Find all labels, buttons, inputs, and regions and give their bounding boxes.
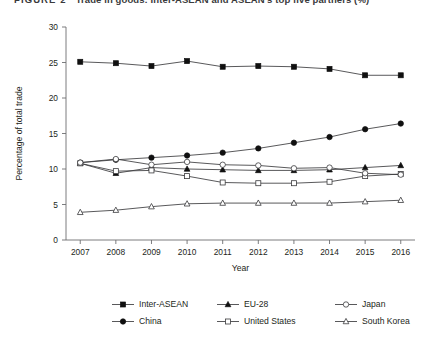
marker-filled-square [291, 64, 296, 69]
marker-filled-square [185, 59, 190, 64]
y-tick-label: 30 [49, 22, 59, 32]
legend-item-south-korea[interactable]: South Korea [335, 316, 422, 327]
marker-filled-circle [256, 146, 261, 151]
legend-label: South Korea [362, 316, 410, 327]
series-united-states [78, 161, 404, 186]
y-axis-title: Percentage of total trade [14, 86, 24, 180]
legend-item-china[interactable]: China [112, 316, 217, 327]
legend-marker-open-square [217, 316, 239, 327]
marker-filled-square [121, 302, 126, 307]
marker-filled-triangle [398, 162, 404, 167]
y-tick-label: 5 [53, 200, 58, 210]
marker-open-triangle [220, 200, 226, 205]
figure-number: FIGURE 2 [14, 0, 67, 5]
marker-open-square [149, 168, 154, 173]
x-tick-label: 2007 [71, 247, 90, 257]
x-tick-label: 2016 [391, 247, 410, 257]
legend-label: EU-28 [244, 299, 268, 310]
legend-marker-open-circle [335, 299, 357, 310]
marker-filled-square [398, 73, 403, 78]
series-line [80, 159, 401, 175]
legend-label: Inter-ASEAN [139, 299, 188, 310]
legend-label: China [139, 316, 161, 327]
x-tick-label: 2012 [249, 247, 268, 257]
marker-open-triangle [343, 318, 349, 323]
marker-open-square [291, 181, 296, 186]
line-chart: 051015202530 200720082009201020112012201… [0, 8, 441, 293]
marker-open-circle [78, 160, 83, 165]
marker-open-circle [327, 165, 332, 170]
y-tick-label: 15 [49, 129, 59, 139]
legend-marker-filled-square [112, 299, 134, 310]
marker-open-circle [113, 156, 118, 161]
marker-filled-square [327, 66, 332, 71]
x-axis-ticks: 2007200820092010201120122013201420152016 [71, 240, 410, 257]
y-tick-label: 20 [49, 93, 59, 103]
y-tick-label: 25 [49, 58, 59, 68]
legend-marker-filled-circle [112, 316, 134, 327]
marker-filled-triangle [225, 301, 231, 306]
legend-item-japan[interactable]: Japan [335, 299, 422, 310]
y-tick-label: 10 [49, 164, 59, 174]
marker-open-triangle [291, 200, 297, 205]
marker-open-circle [398, 172, 403, 177]
legend-marker-open-triangle [335, 316, 357, 327]
series-south-korea [77, 197, 403, 214]
marker-filled-square [220, 64, 225, 69]
chart-legend: Inter-ASEANEU-28JapanChinaUnited StatesS… [112, 296, 422, 330]
marker-open-square [185, 174, 190, 179]
marker-filled-circle [291, 140, 296, 145]
x-tick-label: 2011 [214, 247, 232, 257]
marker-open-square [327, 179, 332, 184]
marker-open-circle [184, 159, 189, 164]
x-tick-label: 2013 [285, 247, 304, 257]
legend-item-eu-28[interactable]: EU-28 [217, 299, 335, 310]
marker-filled-square [78, 59, 83, 64]
legend-marker-filled-triangle [217, 299, 239, 310]
series-line [80, 163, 401, 183]
figure-title: Trade in goods: Inter-ASEAN and ASEAN's … [76, 0, 370, 5]
y-axis-ticks: 051015202530 [49, 22, 66, 245]
x-tick-label: 2010 [178, 247, 197, 257]
marker-open-circle [149, 162, 154, 167]
x-tick-label: 2009 [142, 247, 161, 257]
marker-open-circle [291, 166, 296, 171]
marker-filled-square [113, 61, 118, 66]
marker-open-triangle [255, 200, 261, 205]
figure-container: FIGURE 2Trade in goods: Inter-ASEAN and … [0, 0, 441, 340]
series-line [80, 200, 401, 212]
marker-open-circle [362, 171, 367, 176]
marker-filled-circle [184, 153, 189, 158]
marker-filled-circle [398, 121, 403, 126]
marker-open-square [113, 169, 118, 174]
x-tick-label: 2008 [107, 247, 126, 257]
marker-filled-circle [220, 150, 225, 155]
marker-open-circle [343, 302, 348, 307]
series-eu-28 [77, 160, 403, 175]
legend-row: Inter-ASEANEU-28Japan [112, 296, 422, 313]
marker-filled-square [256, 64, 261, 69]
chart-axes [66, 27, 415, 240]
legend-label: Japan [362, 299, 385, 310]
marker-open-square [256, 181, 261, 186]
series-line [80, 61, 401, 75]
marker-open-circle [220, 162, 225, 167]
x-axis-title: Year [232, 263, 250, 273]
marker-open-triangle [398, 197, 404, 202]
series-inter-asean [78, 59, 404, 78]
legend-item-inter-asean[interactable]: Inter-ASEAN [112, 299, 217, 310]
x-tick-label: 2015 [356, 247, 375, 257]
marker-open-square [226, 319, 231, 324]
legend-label: United States [244, 316, 296, 327]
marker-filled-square [363, 73, 368, 78]
chart-series-layer [77, 59, 403, 215]
marker-open-circle [256, 163, 261, 168]
x-tick-label: 2014 [320, 247, 339, 257]
marker-filled-circle [149, 155, 154, 160]
series-china [78, 121, 404, 165]
marker-filled-circle [362, 127, 367, 132]
y-tick-label: 0 [53, 235, 58, 245]
series-line [80, 124, 401, 163]
legend-item-united-states[interactable]: United States [217, 316, 335, 327]
marker-filled-square [149, 64, 154, 69]
